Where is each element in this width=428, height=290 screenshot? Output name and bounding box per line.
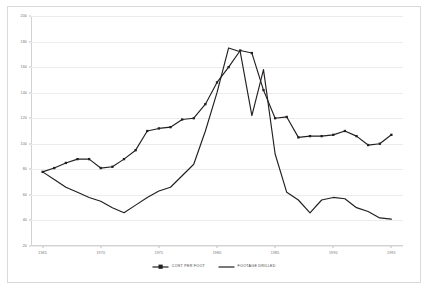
data-point-marker [181,118,183,120]
series-footage-drilled [43,48,392,219]
x-tick-label: 1965 [38,251,47,255]
data-point-marker [355,135,357,137]
legend-item[interactable]: FOOTAGE DRILLED [218,264,276,270]
legend-item[interactable]: COST PER FOOT [152,264,205,270]
y-tick-label: 60 [23,193,27,197]
x-tick-mark [100,246,101,248]
x-tick-mark [275,246,276,248]
x-tick-mark [158,246,159,248]
data-point-marker [100,167,102,169]
data-point-marker [123,158,125,160]
data-point-marker [309,135,311,137]
data-point-marker [158,127,160,129]
data-point-marker [274,117,276,119]
y-tick-label: 40 [23,218,27,222]
data-point-marker [169,126,171,128]
data-point-marker [134,149,136,151]
x-tick-label: 1995 [387,251,396,255]
legend-line-marker-icon [152,264,169,270]
x-tick-mark [217,246,218,248]
x-tick-label: 1975 [155,251,164,255]
series-cost-per-foot [41,49,392,173]
y-tick-label: 140 [21,91,27,95]
series-line [43,48,392,219]
data-point-marker [262,89,264,91]
series-line [43,51,392,172]
y-tick-label: 160 [21,65,27,69]
x-tick-label: 1985 [271,251,280,255]
x-tick-label: 1970 [96,251,105,255]
y-tick-label: 20 [23,244,27,248]
data-point-marker [227,66,229,68]
plot-area: 20406080100120140160180200 1965197019751… [31,16,403,246]
data-point-marker [286,116,288,118]
data-point-marker [65,162,67,164]
data-point-marker [146,130,148,132]
data-point-marker [320,135,322,137]
y-tick-label: 100 [21,142,27,146]
data-point-marker [344,130,346,132]
data-point-marker [251,52,253,54]
x-tick-label: 1990 [329,251,338,255]
x-tick-mark [42,246,43,248]
data-point-marker [193,117,195,119]
legend-label: FOOTAGE DRILLED [238,265,276,269]
data-point-marker [216,81,218,83]
data-point-marker [111,166,113,168]
data-point-marker [297,136,299,138]
legend-line-icon [218,264,235,270]
y-tick-label: 120 [21,116,27,120]
y-tick-label: 180 [21,40,27,44]
data-point-marker [76,158,78,160]
data-point-marker [332,134,334,136]
legend-label: COST PER FOOT [172,265,205,269]
data-point-marker [204,103,206,105]
data-point-marker [367,144,369,146]
chart-figure: 20406080100120140160180200 1965197019751… [0,0,428,290]
x-tick-mark [391,246,392,248]
chart-legend: COST PER FOOTFOOTAGE DRILLED [0,264,428,270]
x-tick-mark [333,246,334,248]
data-point-marker [88,158,90,160]
y-tick-label: 80 [23,167,27,171]
data-point-marker [379,143,381,145]
series-layer [31,16,403,246]
data-point-marker [53,167,55,169]
data-point-marker [390,134,392,136]
x-tick-label: 1980 [213,251,222,255]
y-tick-label: 200 [21,14,27,18]
